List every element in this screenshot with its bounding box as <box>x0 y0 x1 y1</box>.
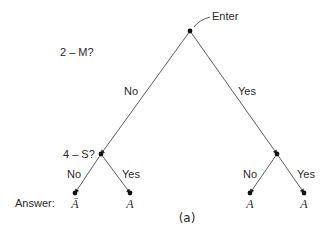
answer-4: A <box>299 197 308 211</box>
answer-row-label: Answer: <box>15 197 55 209</box>
right-node <box>275 152 280 157</box>
root-node <box>188 29 193 34</box>
answer-1: Ā <box>70 197 79 211</box>
edge-label-root-no: No <box>124 85 138 97</box>
answer-3: A <box>245 197 254 211</box>
leaf-node-1 <box>73 191 78 196</box>
left-node <box>99 152 104 157</box>
edge-root-yes <box>190 31 277 154</box>
enter-pointer <box>194 17 210 27</box>
question-root: 2 – M? <box>60 46 94 58</box>
edge-label-left-yes: Yes <box>122 168 140 180</box>
question-left: 4 – S? <box>63 148 95 160</box>
enter-label: Enter <box>212 10 239 22</box>
edge-label-root-yes: Yes <box>238 85 256 97</box>
decision-tree: Enter 2 – M? 4 – S? No Yes No Yes No Yes… <box>0 0 331 238</box>
answer-2: A <box>125 197 134 211</box>
figure-caption: (a) <box>179 211 196 225</box>
edge-label-left-no: No <box>67 168 81 180</box>
leaf-node-4 <box>302 191 307 196</box>
edge-root-no <box>101 31 190 154</box>
leaf-node-2 <box>128 191 133 196</box>
edge-label-right-yes: Yes <box>297 168 315 180</box>
leaf-node-3 <box>248 191 253 196</box>
edge-label-right-no: No <box>243 168 257 180</box>
